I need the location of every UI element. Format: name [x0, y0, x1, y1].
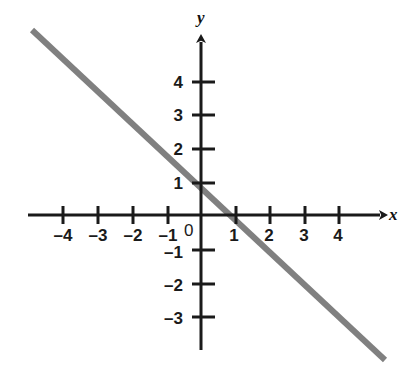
y-tick-label--3: –3 — [155, 310, 183, 327]
y-tick-label-3: 3 — [165, 107, 183, 124]
origin-label: 0 — [184, 222, 193, 239]
x-tick-label-4: 4 — [333, 227, 342, 244]
x-tick-label-2: 2 — [264, 227, 273, 244]
x-tick-label--1: –1 — [159, 227, 178, 244]
x-tick-label--4: –4 — [54, 227, 73, 244]
y-tick-label--2: –2 — [155, 277, 183, 294]
plotted-line — [32, 30, 385, 360]
x-tick-label-3: 3 — [299, 227, 308, 244]
graph-figure: y x 0 –4 –3 –2 –1 1 2 3 4 4 3 2 1 –1 –2 … — [0, 0, 405, 369]
y-tick-label-2: 2 — [165, 141, 183, 158]
x-tick-label--3: –3 — [89, 227, 108, 244]
y-tick-label-4: 4 — [165, 74, 183, 91]
y-tick-label--1: –1 — [155, 244, 183, 261]
x-tick-label--2: –2 — [124, 227, 143, 244]
x-axis-label: x — [389, 206, 398, 223]
coordinate-plane-svg — [0, 0, 405, 369]
y-axis-label: y — [197, 9, 205, 26]
y-tick-label-1: 1 — [165, 175, 183, 192]
x-tick-label-1: 1 — [229, 227, 238, 244]
